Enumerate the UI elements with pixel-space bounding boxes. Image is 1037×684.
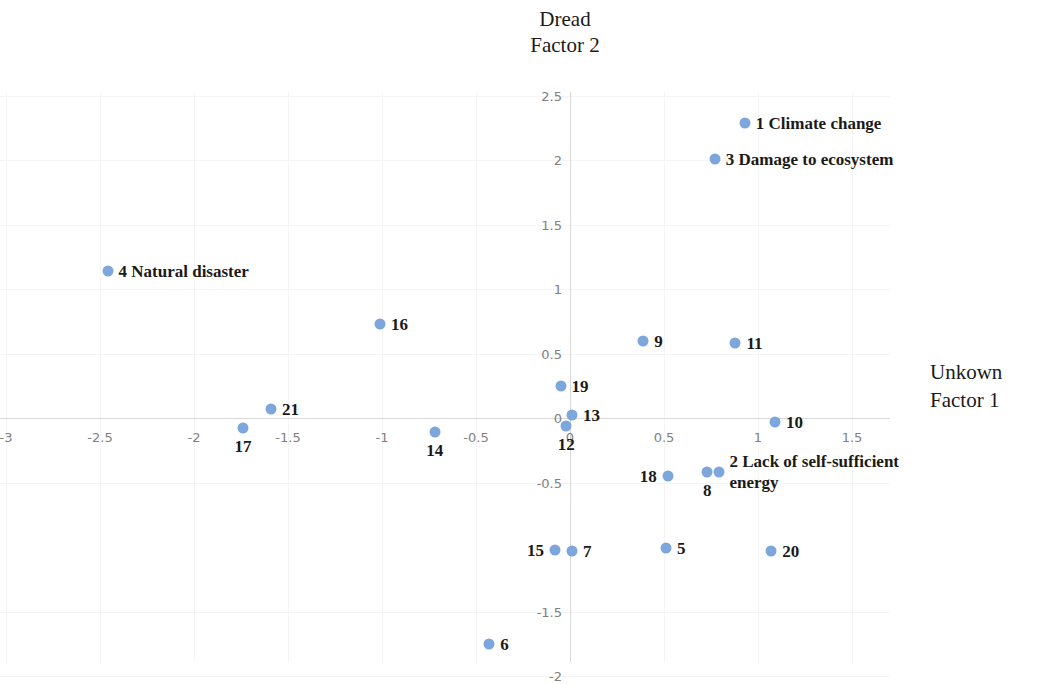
data-point (769, 416, 780, 427)
data-point-label: 12 (558, 434, 575, 455)
data-point-label: 4 Natural disaster (119, 260, 249, 281)
data-point-label: 20 (782, 540, 799, 561)
data-point-label: 17 (234, 436, 251, 457)
data-point (709, 153, 720, 164)
x-tick-label: -1.5 (275, 430, 300, 445)
x-tick-label: -1 (376, 430, 389, 445)
gridline-vertical (288, 92, 289, 662)
data-point-label: 7 (583, 540, 592, 561)
gridline-vertical (6, 92, 7, 662)
data-point (549, 544, 560, 555)
gridline-vertical (664, 92, 665, 662)
gridline-horizontal (0, 612, 890, 613)
x-tick-label: 0.5 (654, 430, 675, 445)
data-point (375, 318, 386, 329)
gridline-vertical (382, 92, 383, 662)
data-point (237, 423, 248, 434)
data-point-label: 2 Lack of self-sufficient energy (730, 451, 900, 493)
data-point-label: 9 (654, 330, 663, 351)
y-tick-label: 2.5 (522, 88, 562, 103)
data-point (739, 117, 750, 128)
x-tick-label: -2.5 (87, 430, 112, 445)
y-tick-label: 1 (522, 282, 562, 297)
data-point-label: 1 Climate change (756, 112, 882, 133)
gridline-vertical (100, 92, 101, 662)
data-point (561, 420, 572, 431)
gridline-vertical (852, 92, 853, 662)
data-point-label: 14 (426, 440, 443, 461)
data-point (660, 543, 671, 554)
x-tick-label: 1 (754, 430, 762, 445)
data-point-label: 5 (677, 538, 686, 559)
data-point (638, 335, 649, 346)
y-tick-label: -2 (522, 669, 562, 684)
data-point (713, 467, 724, 478)
data-point (766, 545, 777, 556)
data-point (730, 338, 741, 349)
data-point (662, 471, 673, 482)
x-tick-label: 1.5 (842, 430, 863, 445)
data-point-label: 18 (640, 466, 657, 487)
gridline-vertical (758, 92, 759, 662)
data-point-label: 13 (583, 405, 600, 426)
data-point (555, 380, 566, 391)
data-point-label: 6 (500, 633, 509, 654)
data-point (429, 427, 440, 438)
data-point-label: 3 Damage to ecosystem (726, 148, 894, 169)
data-point (266, 403, 277, 414)
data-point-label: 15 (527, 539, 544, 560)
data-point-label: 19 (572, 375, 589, 396)
data-point (102, 265, 113, 276)
y-tick-label: 0.5 (522, 346, 562, 361)
data-point (702, 467, 713, 478)
y-tick-label: 1.5 (522, 217, 562, 232)
data-point (484, 638, 495, 649)
data-point (566, 410, 577, 421)
gridline-horizontal (0, 289, 890, 290)
x-tick-label: -3 (0, 430, 12, 445)
x-tick-label: -0.5 (463, 430, 488, 445)
data-point (566, 545, 577, 556)
data-point-label: 10 (786, 411, 803, 432)
y-tick-label: 0 (522, 411, 562, 426)
y-tick-label: -0.5 (522, 475, 562, 490)
data-point-label: 8 (703, 480, 712, 501)
x-axis-line (0, 418, 890, 419)
x-tick-label: -2 (188, 430, 201, 445)
gridline-horizontal (0, 676, 890, 677)
data-point-label: 16 (391, 313, 408, 334)
y-tick-label: 2 (522, 153, 562, 168)
gridline-vertical (194, 92, 195, 662)
gridline-horizontal (0, 225, 890, 226)
gridline-horizontal (0, 96, 890, 97)
gridline-vertical (476, 92, 477, 662)
y-tick-label: -1.5 (522, 604, 562, 619)
data-point-label: 11 (746, 333, 762, 354)
data-point-label: 21 (282, 398, 299, 419)
